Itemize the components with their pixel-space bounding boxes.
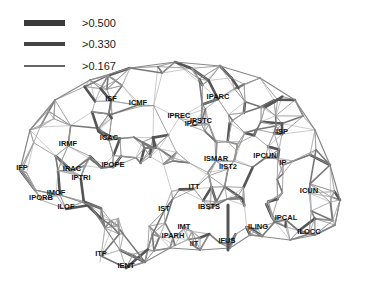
region-label-ibsts: IBSTS [198,202,220,211]
region-label-ilocc: ILOCC [297,227,321,236]
region-label-ipcun: IPCUN [253,151,276,160]
region-label-itp: ITP [95,249,107,258]
region-label-iit: IIT [190,239,199,248]
region-label-ifp: IFP [16,163,28,172]
region-label-iporb: IPORB [29,193,53,202]
region-label-ilof: ILOF [57,202,74,211]
region-label-ipope: IPOPE [102,160,125,169]
region-label-icmf: ICMF [129,98,148,107]
region-label-ip: IP [279,158,286,167]
region-label-icun: ICUN [300,186,318,195]
region-label-itt: ITT [188,182,200,191]
region-label-irmf: IRMF [59,139,78,148]
region-label-ist: IST [158,204,170,213]
region-label-ient: IENT [117,261,135,270]
region-label-iparh: IPARH [162,231,185,240]
region-label-ifus: IFUS [218,236,235,245]
region-label-isp: ISP [276,127,288,136]
region-label-ipstc: IPSTC [190,116,213,125]
region-label-iparc: IPARC [207,92,230,101]
region-label-iling: ILING [248,222,268,231]
region-label-iptri: IPTRI [71,173,90,182]
region-label-iist2: IIST2 [219,162,237,171]
region-label-imt: IMT [178,222,191,231]
region-label-isf: ISF [105,94,117,103]
region-label-irac: IRAC [63,164,82,173]
region-label-icac: ICAC [100,133,119,142]
brain-network-graph: ISFICMFIPARCIPRECIPCIPSTCISPIRMFICACISMA… [0,0,369,286]
region-label-ipcal: IPCAL [275,213,298,222]
